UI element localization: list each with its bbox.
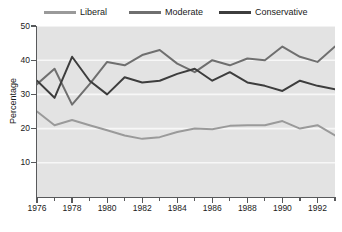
series-line-liberal [37, 112, 335, 139]
line-swatch-icon [129, 11, 161, 14]
x-tick-minor [89, 198, 90, 201]
legend-item-moderate[interactable]: Moderate [129, 4, 203, 20]
series-line-moderate [37, 47, 335, 105]
legend-label-liberal: Liberal [80, 7, 107, 17]
x-tick-minor [229, 198, 230, 201]
plot-area [37, 26, 335, 197]
x-tick-label: 1986 [197, 204, 227, 213]
x-tick-label: 1978 [57, 204, 87, 213]
x-tick-label: 1976 [22, 204, 52, 213]
y-tick-label: 50 [8, 22, 30, 30]
y-tick [31, 60, 36, 61]
line-swatch-icon [219, 11, 251, 14]
y-tick-label: 10 [8, 158, 30, 166]
y-tick [31, 25, 36, 26]
series-line-conservative [37, 57, 335, 98]
x-tick-minor [334, 198, 335, 201]
x-tick-minor [159, 198, 160, 201]
x-tick-minor [264, 198, 265, 201]
legend-item-liberal[interactable]: Liberal [44, 4, 107, 20]
x-tick-label: 1992 [302, 204, 332, 213]
line-swatch-icon [44, 11, 76, 14]
y-axis-title: Percentage [8, 66, 18, 136]
legend-label-moderate: Moderate [165, 7, 203, 17]
x-tick-label: 1980 [92, 204, 122, 213]
y-axis-line [36, 26, 37, 198]
chart-legend: Liberal Moderate Conservative [0, 4, 342, 20]
line-chart: Liberal Moderate Conservative 1020304050… [0, 0, 342, 232]
x-tick-minor [54, 198, 55, 201]
x-tick-minor [299, 198, 300, 201]
x-axis-line [36, 197, 336, 198]
series-canvas [37, 26, 335, 197]
y-tick [31, 94, 36, 95]
y-tick [31, 162, 36, 163]
x-tick-label: 1988 [232, 204, 262, 213]
legend-item-conservative[interactable]: Conservative [219, 4, 308, 20]
y-tick [31, 128, 36, 129]
x-tick-label: 1990 [267, 204, 297, 213]
y-tick-label: 40 [8, 56, 30, 64]
legend-label-conservative: Conservative [255, 7, 308, 17]
x-tick-minor [124, 198, 125, 201]
x-tick-label: 1984 [162, 204, 192, 213]
x-tick-label: 1982 [127, 204, 157, 213]
x-tick-minor [194, 198, 195, 201]
